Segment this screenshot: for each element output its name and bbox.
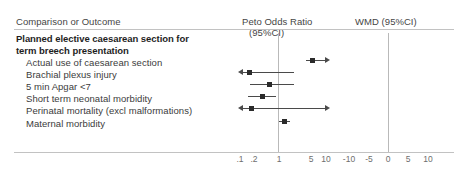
peto-null-line <box>278 33 279 152</box>
row-label-actual-use-of-caesarean-section: Actual use of caesarean section <box>26 57 162 68</box>
row-label-short-term-neonatal-morbidity: Short term neonatal morbidity <box>26 93 152 104</box>
point-estimate-marker <box>260 94 265 99</box>
row-label-perinatal-mortality: Perinatal mortality (excl malformations) <box>26 105 192 116</box>
ci-arrow-right-icon <box>325 105 330 111</box>
point-estimate-marker <box>249 106 254 111</box>
ci-whisker <box>250 84 294 85</box>
peto-tick-4: 10 <box>321 154 330 164</box>
ci-whisker <box>248 96 276 97</box>
group-title-line-1: Planned elective caesarean section for <box>16 33 189 44</box>
column-header-outcome: Comparison or Outcome <box>16 16 121 27</box>
point-estimate-marker <box>247 70 252 75</box>
ci-whisker <box>279 121 290 122</box>
axis-rule-left <box>14 152 226 153</box>
axis-rule-plot <box>226 152 454 153</box>
ci-arrow-right-icon <box>325 57 330 63</box>
column-header-peto-odds-ratio: Peto Odds Ratio <box>242 16 312 27</box>
ci-arrow-left-icon <box>238 69 243 75</box>
column-header-wmd: WMD (95%CI) <box>355 16 417 27</box>
wmd-tick-4: 10 <box>423 154 432 164</box>
wmd-tick-0: -10 <box>343 154 355 164</box>
row-label-maternal-morbidity: Maternal morbidity <box>26 118 105 129</box>
peto-tick-2: 1 <box>277 154 282 164</box>
wmd-tick-3: 5 <box>406 154 411 164</box>
header-divider <box>14 29 454 30</box>
row-label-5-min-apgar-under-7: 5 min Apgar <7 <box>26 81 91 92</box>
forest-plot-figure: Comparison or Outcome Peto Odds Ratio (9… <box>0 0 462 183</box>
group-title-line-2: term breech presentation <box>16 45 129 56</box>
peto-tick-3: 5 <box>309 154 314 164</box>
row-label-brachial-plexus-injury: Brachial plexus injury <box>26 69 117 80</box>
peto-tick-1: .2 <box>250 154 257 164</box>
peto-tick-0: .1 <box>236 154 243 164</box>
point-estimate-marker <box>267 82 272 87</box>
ci-whisker <box>306 60 325 61</box>
wmd-tick-2: 0 <box>386 154 391 164</box>
point-estimate-marker <box>282 119 287 124</box>
ci-arrow-left-icon <box>238 105 243 111</box>
wmd-tick-1: -5 <box>365 154 373 164</box>
ci-whisker <box>243 108 325 109</box>
wmd-null-line <box>388 33 389 152</box>
point-estimate-marker <box>310 58 315 63</box>
ci-whisker <box>243 72 294 73</box>
